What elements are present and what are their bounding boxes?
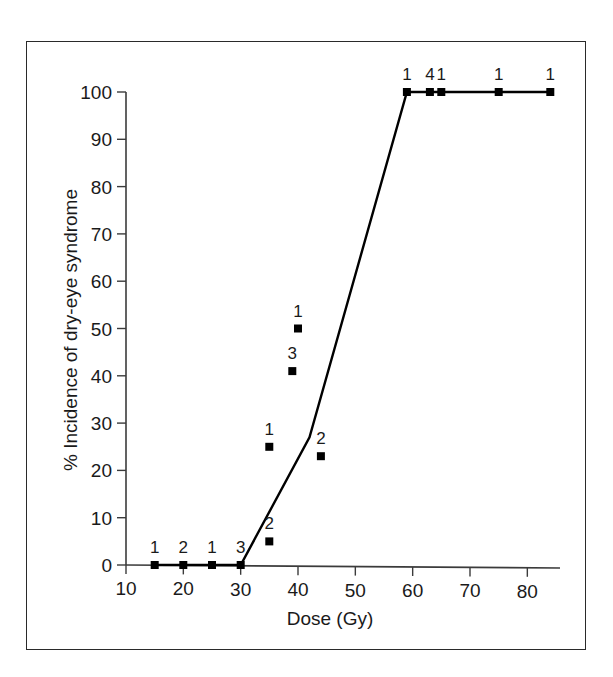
data-point-label: 2 xyxy=(265,514,274,533)
data-point-marker xyxy=(437,88,445,96)
data-point-label: 1 xyxy=(265,420,274,439)
x-tick-label-30: 30 xyxy=(230,579,251,600)
data-point-marker xyxy=(151,561,159,569)
data-point-marker xyxy=(179,561,187,569)
data-point-marker xyxy=(403,88,411,96)
y-tick-label-0: 0 xyxy=(101,555,112,576)
x-tick-label-20: 20 xyxy=(173,578,194,599)
y-tick-label-60: 60 xyxy=(91,271,112,292)
data-point-label: 1 xyxy=(207,538,216,557)
data-point-label: 3 xyxy=(288,344,297,363)
y-tick-label-10: 10 xyxy=(91,508,112,529)
x-axis-tick-labels: 1020304050607080 xyxy=(115,578,537,602)
data-point-label: 4 xyxy=(425,65,434,84)
y-tick-label-40: 40 xyxy=(91,366,112,387)
data-point-label: 2 xyxy=(316,429,325,448)
data-point-marker xyxy=(237,561,245,569)
data-point-marker xyxy=(546,88,554,96)
data-point-marker xyxy=(265,537,273,545)
y-tick-label-50: 50 xyxy=(91,319,112,340)
data-point-label: 1 xyxy=(546,65,555,84)
data-point-marker xyxy=(317,452,325,460)
y-tick-label-20: 20 xyxy=(91,460,112,481)
x-tick-label-50: 50 xyxy=(345,580,366,601)
data-point-count-labels: 12132131214111 xyxy=(150,65,555,557)
y-axis-ticks xyxy=(117,92,126,565)
data-point-label: 1 xyxy=(293,302,302,321)
y-axis-title: % Incidence of dry-eye syndrome xyxy=(60,189,81,471)
fitted-dose-response-line xyxy=(155,92,551,565)
y-tick-label-30: 30 xyxy=(91,413,112,434)
data-point-marker xyxy=(294,325,302,333)
x-tick-label-70: 70 xyxy=(459,580,480,601)
x-axis-title: Dose (Gy) xyxy=(287,608,374,629)
data-point-label: 1 xyxy=(494,65,503,84)
data-point-marker xyxy=(208,561,216,569)
figure-root: 0102030405060708090100 % Incidence of dr… xyxy=(0,0,613,677)
data-point-marker xyxy=(265,443,273,451)
y-axis-tick-labels: 0102030405060708090100 xyxy=(80,82,112,576)
data-point-marker xyxy=(495,88,503,96)
y-tick-label-100: 100 xyxy=(80,82,112,103)
data-point-label: 1 xyxy=(437,65,446,84)
data-point-label: 1 xyxy=(150,538,159,557)
data-point-markers xyxy=(151,88,555,569)
scatter-plot: 0102030405060708090100 % Incidence of dr… xyxy=(0,0,613,677)
x-axis: 1020304050607080 Dose (Gy) xyxy=(115,565,560,629)
data-point-label: 1 xyxy=(402,65,411,84)
y-tick-label-80: 80 xyxy=(91,177,112,198)
x-tick-label-60: 60 xyxy=(402,580,423,601)
data-point-marker xyxy=(288,367,296,375)
data-point-label: 2 xyxy=(179,538,188,557)
y-tick-label-70: 70 xyxy=(91,224,112,245)
x-tick-label-80: 80 xyxy=(517,581,538,602)
x-tick-label-10: 10 xyxy=(115,578,136,599)
y-tick-label-90: 90 xyxy=(91,129,112,150)
data-point-marker xyxy=(426,88,434,96)
x-tick-label-40: 40 xyxy=(287,579,308,600)
data-point-label: 3 xyxy=(236,538,245,557)
y-axis: 0102030405060708090100 % Incidence of dr… xyxy=(60,82,126,576)
